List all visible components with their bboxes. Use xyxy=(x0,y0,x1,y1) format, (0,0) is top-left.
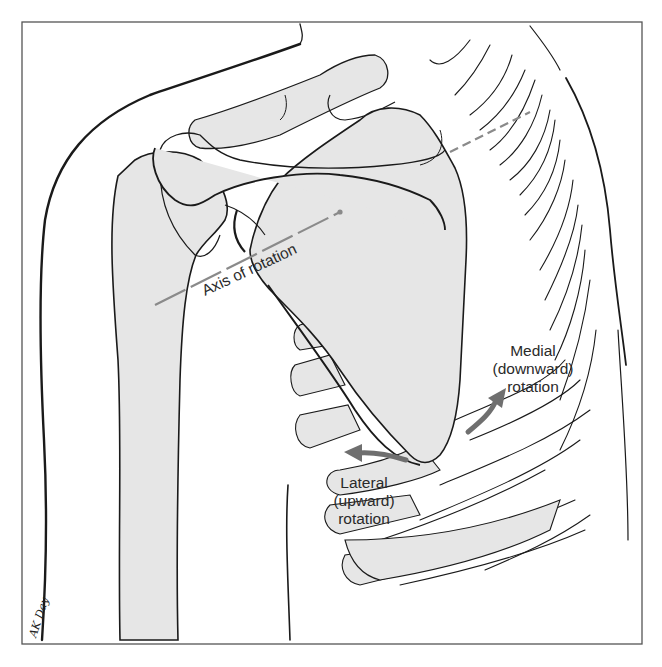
lateral-rotation-label-line3: rotation xyxy=(338,510,390,527)
medial-rotation-label-line3: rotation xyxy=(507,378,559,395)
medial-rotation-label-line2: (downward) xyxy=(493,360,574,377)
lateral-rotation-label-line2: (upward) xyxy=(333,492,394,509)
medial-rotation-label-line1: Medial xyxy=(510,342,556,359)
lateral-rotation-label-line1: Lateral xyxy=(340,474,387,491)
shoulder-rotation-diagram: Axis of rotation Medial (downward) rotat… xyxy=(0,0,662,667)
